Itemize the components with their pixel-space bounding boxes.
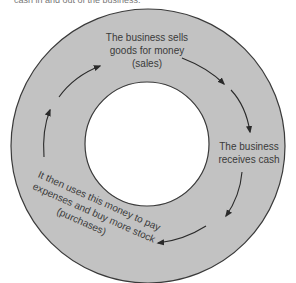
step-cash-line-1: The business xyxy=(219,141,278,152)
step-sales-line-2: goods for money xyxy=(110,45,185,56)
center-hole xyxy=(85,82,209,206)
step-sales-line-1: The business sells xyxy=(106,32,188,43)
cash-cycle-diagram: The business sells goods for money (sale… xyxy=(0,0,296,283)
step-sales-line-3: (sales) xyxy=(132,58,162,69)
step-cash-line-2: receives cash xyxy=(218,154,279,165)
